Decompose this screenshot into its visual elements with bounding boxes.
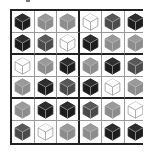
dark-cube-icon [37,34,54,52]
grid-cell[interactable] [125,99,144,121]
grid-cell[interactable] [35,77,58,99]
grid-cell[interactable] [12,11,35,33]
black-cube-icon [59,57,76,75]
grid-cell[interactable] [102,99,125,121]
black-cube-icon [127,13,143,31]
white-cube-icon [82,13,99,31]
gray-cube-icon [14,101,31,119]
black-cube-icon [37,78,54,96]
black-cube-icon [59,101,76,119]
grid-cell[interactable] [57,99,80,121]
grid-cell[interactable] [57,11,80,33]
gray-cube-icon [82,123,99,141]
grid-cell[interactable] [57,77,80,99]
grid-cell[interactable] [102,33,125,55]
gray-cube-icon [127,78,143,96]
grid-cell[interactable] [35,33,58,55]
grid-cell[interactable] [57,33,80,55]
dark-cube-icon [82,101,99,119]
grid-cell[interactable] [125,55,144,77]
grid-cell[interactable] [102,121,125,143]
grid-cell[interactable] [80,77,103,99]
grid-cell[interactable] [35,121,58,143]
grid-cell[interactable] [35,55,58,77]
grid-cell[interactable] [80,99,103,121]
black-cube-icon [127,123,143,141]
white-cube-icon [14,57,31,75]
grid-cell[interactable] [125,11,144,33]
black-cube-icon [82,78,99,96]
grid-cell[interactable] [35,99,58,121]
white-cube-icon [127,101,143,119]
grid-cell[interactable] [80,33,103,55]
gray-cube-icon [59,123,76,141]
grid-cell[interactable] [102,77,125,99]
grid-cell[interactable] [125,77,144,99]
cropped-title-mark [26,0,30,2]
white-cube-icon [59,34,76,52]
grid-cell[interactable] [80,121,103,143]
black-cube-icon [104,123,121,141]
grid-cell[interactable] [57,55,80,77]
gray-cube-icon [59,13,76,31]
black-cube-icon [37,101,54,119]
dark-cube-icon [59,78,76,96]
cube-grid-board [10,9,143,145]
dark-cube-icon [14,123,31,141]
grid-cell[interactable] [57,121,80,143]
white-cube-icon [37,123,54,141]
white-cube-icon [104,78,121,96]
black-cube-icon [14,34,31,52]
gray-cube-icon [14,78,31,96]
grid-cell[interactable] [12,121,35,143]
grid-cell[interactable] [12,99,35,121]
gray-cube-icon [104,101,121,119]
black-cube-icon [104,57,121,75]
gray-cube-icon [82,57,99,75]
grid-cell[interactable] [12,77,35,99]
grid-cell[interactable] [12,55,35,77]
dark-cube-icon [127,57,143,75]
gray-cube-icon [37,13,54,31]
grid-cell[interactable] [125,121,144,143]
grid-cell[interactable] [102,11,125,33]
dark-cube-icon [104,13,121,31]
grid-cell[interactable] [12,33,35,55]
black-cube-icon [82,34,99,52]
grid-cell[interactable] [125,33,144,55]
grid-cell[interactable] [80,11,103,33]
grid-cell[interactable] [80,55,103,77]
grid-cell[interactable] [35,11,58,33]
gray-cube-icon [37,57,54,75]
gray-cube-icon [104,34,121,52]
grid-cell[interactable] [102,55,125,77]
gray-cube-icon [127,34,143,52]
black-cube-icon [14,13,31,31]
